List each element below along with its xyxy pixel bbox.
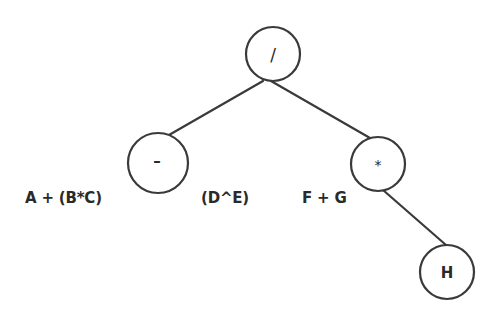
node-divide-label: / [270,45,276,65]
node-h-label: H [441,264,454,282]
label-d-power-e: (D^E) [201,189,249,207]
label-a-plus-b-times-c: A + (B*C) [25,189,102,207]
node-divide: / [246,27,300,81]
node-minus-label: – [153,152,161,170]
node-h: H [420,245,474,299]
node-multiply: * [351,137,405,191]
node-multiply-label: * [375,157,382,173]
label-f-plus-g: F + G [302,189,347,207]
edge-times-h [383,190,446,245]
edge-root-minus [169,81,263,135]
expression-tree: / – * H [0,0,493,319]
node-minus: – [128,133,188,193]
edge-root-times [271,81,370,138]
